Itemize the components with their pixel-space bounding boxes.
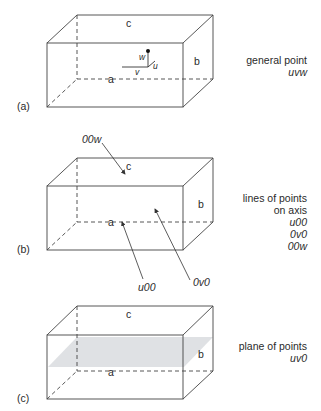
edge-label-b: b <box>194 55 200 67</box>
edge-label-c: c <box>126 160 131 172</box>
plane-uv0 <box>48 337 213 367</box>
caption-notation: uvw <box>246 66 307 78</box>
edge-label-b: b <box>198 348 204 360</box>
axis-arrows <box>102 143 190 280</box>
point-label-v: v <box>135 66 139 78</box>
panel-label-b: (b) <box>17 243 30 255</box>
caption-notation: uv0 <box>239 352 307 364</box>
edge-label-c: c <box>126 17 131 29</box>
caption-text: general point <box>246 54 307 66</box>
arrow-label-u00: u00 <box>138 281 156 293</box>
edge-label-a: a <box>108 73 114 85</box>
panel-label-a: (a) <box>17 100 30 112</box>
caption-text: plane of points <box>239 340 307 352</box>
caption-text: lines of points <box>243 192 307 204</box>
caption-text: on axis <box>243 204 307 216</box>
edge-label-a: a <box>108 366 114 378</box>
edge-label-b: b <box>198 198 204 210</box>
point-label-w: w <box>139 51 145 63</box>
edge-label-a: a <box>108 216 114 228</box>
arrow-0v0 <box>155 209 190 280</box>
caption-notation: 0v0 <box>243 228 307 240</box>
arrow-u00 <box>122 222 143 279</box>
caption-c: plane of points uv0 <box>239 340 307 364</box>
caption-notation: u00 <box>243 216 307 228</box>
edge-label-c: c <box>126 308 131 320</box>
arrow-label-0v0: 0v0 <box>193 276 210 288</box>
arrow-00w <box>102 143 125 174</box>
caption-a: general point uvw <box>246 54 307 78</box>
caption-notation: 00w <box>243 240 307 252</box>
arrow-label-00w: 00w <box>82 133 101 145</box>
point-label-u: u <box>153 60 158 72</box>
panel-label-c: (c) <box>17 392 29 404</box>
caption-b: lines of points on axis u00 0v0 00w <box>243 192 307 252</box>
